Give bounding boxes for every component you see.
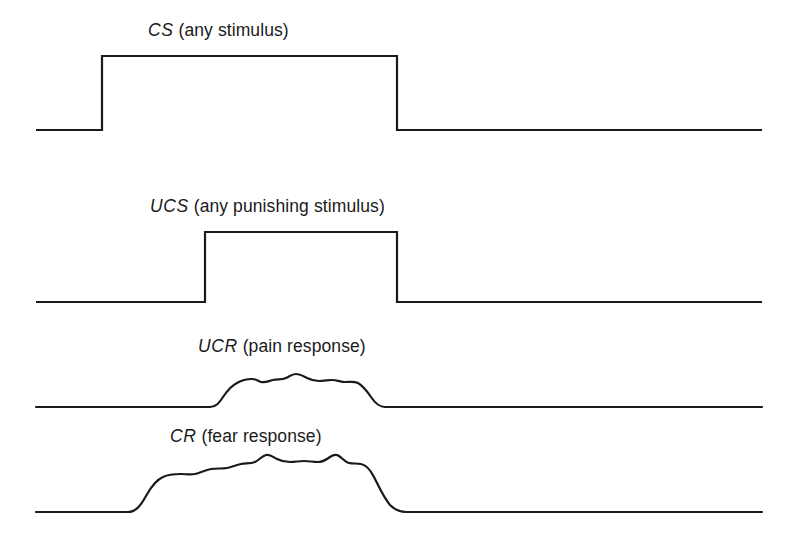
cs-code-text: CS xyxy=(148,20,174,40)
cs-trace-label: CS (any stimulus) xyxy=(148,22,289,40)
ucr-waveform xyxy=(36,374,762,407)
ucs-waveform xyxy=(36,232,762,302)
cr-description-text: (fear response) xyxy=(201,426,321,446)
cr-waveform xyxy=(36,455,762,512)
ucr-code-text: UCR xyxy=(198,336,238,356)
waveform-canvas xyxy=(0,0,798,553)
conditioning-diagram: CS (any stimulus) UCS (any punishing sti… xyxy=(0,0,798,553)
ucs-code-text: UCS xyxy=(150,196,189,216)
cr-trace-label: CR (fear response) xyxy=(170,428,322,446)
ucr-description-text: (pain response) xyxy=(243,336,366,356)
ucs-description-text: (any punishing stimulus) xyxy=(194,196,385,216)
ucs-trace-label: UCS (any punishing stimulus) xyxy=(150,198,385,216)
cr-code-text: CR xyxy=(170,426,196,446)
ucr-trace-label: UCR (pain response) xyxy=(198,338,366,356)
cs-description-text: (any stimulus) xyxy=(178,20,288,40)
cs-waveform xyxy=(36,56,762,130)
